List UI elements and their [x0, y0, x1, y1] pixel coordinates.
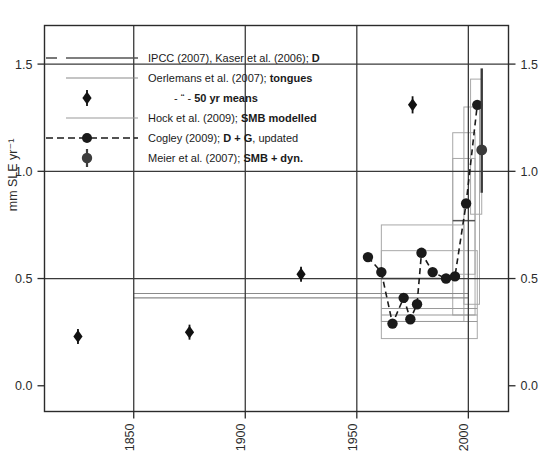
x-axis-tick-label: 2000: [457, 423, 471, 451]
y-axis-tick-label: 1.5: [521, 58, 538, 72]
y-axis-title: mm SLE yr⁻¹: [6, 139, 20, 212]
meier-data-point: [476, 144, 487, 155]
legend-label-bold: SMB modelled: [241, 112, 317, 124]
y-axis-tick-label: 0.5: [15, 272, 32, 286]
figure-background: [0, 0, 545, 464]
y-axis-tick-label: 1.0: [521, 165, 538, 179]
cogley-data-point: [427, 267, 437, 277]
cogley-data-point: [363, 252, 373, 262]
legend-label-bold: D: [312, 52, 320, 64]
cogley-data-point: [398, 293, 408, 303]
cogley-data-point: [450, 271, 460, 281]
legend-label-plain: Hock et al. (2009);: [148, 112, 241, 124]
legend-label-plain: IPCC (2007), Kaser et al. (2006);: [148, 52, 312, 64]
legend-label-bold: 50 yr means: [194, 92, 258, 104]
legend-label-plain: - “ -: [174, 92, 194, 104]
x-axis-tick-label: 1900: [234, 423, 248, 451]
y-axis-tick-label: 1.5: [15, 58, 32, 72]
legend-circle-swatch: [82, 153, 92, 163]
legend-label-plain: Cogley (2009);: [148, 132, 223, 144]
y-axis-tick-label: 0.0: [15, 379, 32, 393]
legend-circle-swatch: [82, 133, 92, 143]
y-axis-tick-label: 0.0: [521, 379, 538, 393]
cogley-data-point: [416, 248, 426, 258]
cogley-data-point: [405, 314, 415, 324]
legend-entry-label: Hock et al. (2009); SMB modelled: [148, 112, 317, 124]
legend-label-bold: tongues: [270, 72, 313, 84]
y-axis-tick-label: 0.5: [521, 272, 538, 286]
figure-root: 1.51.00.50.0 1.51.00.50.0 18501900195020…: [0, 0, 545, 464]
legend-label-bold: SMB + dyn.: [243, 152, 303, 164]
legend-entry-label: IPCC (2007), Kaser et al. (2006); D: [148, 52, 320, 64]
cogley-data-point: [461, 198, 471, 208]
legend-label-plain: Oerlemans et al. (2007);: [148, 72, 270, 84]
cogley-data-point: [376, 267, 386, 277]
cogley-data-point: [387, 318, 397, 328]
legend-entry-label: Meier et al. (2007); SMB + dyn.: [148, 152, 303, 164]
legend-entry-label: - “ - 50 yr means: [174, 92, 258, 104]
legend-label-plain: Meier et al. (2007);: [148, 152, 243, 164]
cogley-data-point: [441, 273, 451, 283]
x-axis-tick-label: 1950: [346, 423, 360, 451]
legend-entry-label: Oerlemans et al. (2007); tongues: [148, 72, 312, 84]
legend-label-bold: D + G: [223, 132, 252, 144]
cogley-data-point: [412, 299, 422, 309]
legend-entry-label: Cogley (2009); D + G, updated: [148, 132, 298, 144]
legend-label-tail: , updated: [252, 132, 298, 144]
sea-level-contribution-chart: 1.51.00.50.0 1.51.00.50.0 18501900195020…: [0, 0, 545, 464]
x-axis-tick-label: 1850: [123, 423, 137, 451]
